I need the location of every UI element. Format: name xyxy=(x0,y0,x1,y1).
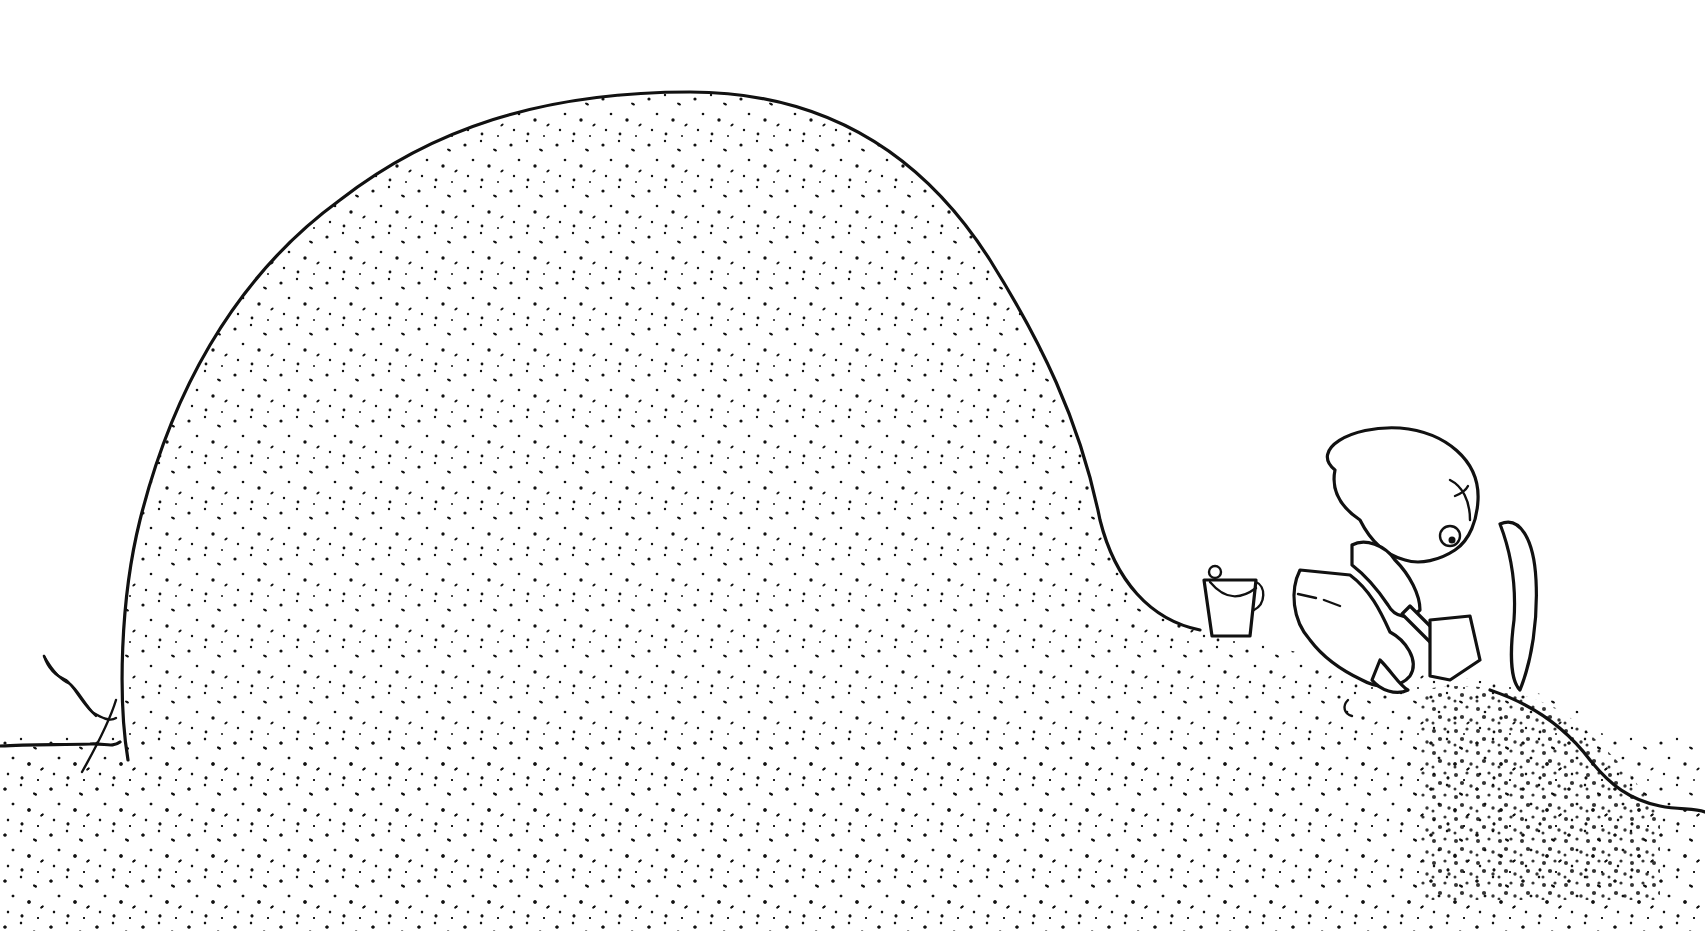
sand-arc xyxy=(1500,522,1536,690)
sand-spray xyxy=(1420,686,1660,900)
illustration-canvas xyxy=(0,0,1705,931)
bucket-icon xyxy=(1204,566,1263,636)
child-figure xyxy=(1294,428,1480,693)
